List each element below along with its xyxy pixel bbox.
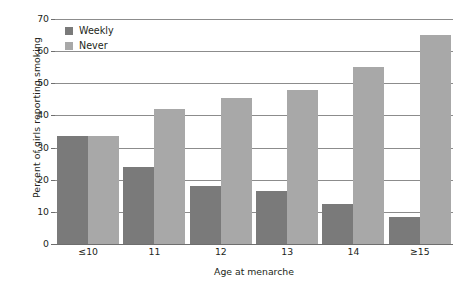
- y-tick-label-10: 10: [37, 207, 49, 216]
- bar-weekly[interactable]: [256, 191, 287, 244]
- y-tick-label-40: 40: [37, 111, 49, 120]
- y-tick-label-20: 20: [37, 175, 49, 184]
- bar-groups: [55, 19, 453, 244]
- legend-item-never[interactable]: Never: [65, 39, 114, 53]
- bar-group: [320, 19, 386, 244]
- legend-item-weekly[interactable]: Weekly: [65, 24, 114, 38]
- x-tick-label: 13: [254, 246, 320, 257]
- x-tick-label: 14: [320, 246, 386, 257]
- bar-never[interactable]: [154, 109, 185, 244]
- legend-label: Weekly: [79, 26, 114, 36]
- y-tick-label-0: 0: [43, 239, 49, 248]
- x-tick-label: 12: [188, 246, 254, 257]
- bar-group: [254, 19, 320, 244]
- y-tick-label-50: 50: [37, 79, 49, 88]
- legend-swatch-icon: [65, 42, 73, 50]
- y-tick-label-60: 60: [37, 46, 49, 55]
- bar-never[interactable]: [353, 67, 384, 244]
- x-tick-label: ≥15: [387, 246, 453, 257]
- bar-weekly[interactable]: [123, 167, 154, 244]
- x-axis-title: Age at menarche: [55, 266, 453, 277]
- bar-never[interactable]: [221, 98, 252, 244]
- gridline-0: [55, 244, 453, 245]
- bar-never[interactable]: [287, 90, 318, 244]
- bar-weekly[interactable]: [57, 136, 88, 244]
- legend-label: Never: [79, 41, 108, 51]
- bar-weekly[interactable]: [389, 217, 420, 244]
- bar-never[interactable]: [420, 35, 451, 244]
- x-tick-label: 11: [121, 246, 187, 257]
- bar-chart: Percent of girls reporting smoking 01020…: [0, 0, 463, 286]
- legend-swatch-icon: [65, 27, 73, 35]
- y-tick-mark-0: [51, 244, 55, 245]
- y-tick-label-30: 30: [37, 143, 49, 152]
- bar-group: [387, 19, 453, 244]
- bar-weekly[interactable]: [190, 186, 221, 244]
- bar-never[interactable]: [88, 136, 119, 244]
- bar-group: [188, 19, 254, 244]
- bar-group: [121, 19, 187, 244]
- y-tick-label-70: 70: [37, 14, 49, 23]
- legend: WeeklyNever: [65, 24, 114, 54]
- x-axis-tick-labels: ≤1011121314≥15: [55, 246, 453, 257]
- bar-weekly[interactable]: [322, 204, 353, 244]
- plot-area: 010203040506070: [55, 19, 453, 244]
- x-tick-label: ≤10: [55, 246, 121, 257]
